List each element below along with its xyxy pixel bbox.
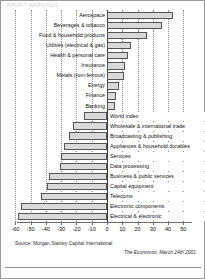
x-axis: -60-50-40-30-20-1001020304050 — [1, 222, 205, 234]
bar — [107, 22, 162, 29]
bar-row: Wholesale & international trade — [1, 121, 205, 131]
source-note: Source: Morgan Stanley Capital Internati… — [15, 241, 112, 246]
bar-label: Finance — [3, 91, 105, 100]
bar-row: Utilities (electrical & gas) — [1, 41, 205, 51]
bar-row: Appliances & household durables — [1, 141, 205, 151]
bar-row: Telecoms — [1, 191, 205, 201]
bar-row: Insurance — [1, 61, 205, 71]
bar — [107, 42, 131, 49]
bar-row: Services — [1, 151, 205, 161]
bar — [47, 183, 107, 190]
bar-row: Food & household products — [1, 31, 205, 41]
bar-label: Banking — [3, 102, 105, 111]
chart-title: PROFIT WARNINGS — [7, 2, 197, 9]
bar — [107, 32, 147, 39]
bar-label: Health & personal care — [3, 51, 105, 60]
bar-label: Electronic components — [109, 202, 205, 211]
bar-label: Food & household products — [3, 31, 105, 40]
bar — [107, 92, 116, 99]
axis-tick-label: 50 — [173, 225, 193, 233]
bar-row: Energy — [1, 81, 205, 91]
chart-figure: PROFIT WARNINGS AerospaceBeverages & tob… — [0, 0, 205, 279]
bar — [49, 173, 107, 180]
bar-row: Capital equipment — [1, 181, 205, 191]
bar — [18, 213, 107, 220]
bar-label: Aerospace — [3, 11, 105, 20]
bar — [60, 163, 107, 170]
bar — [107, 72, 124, 79]
bar-label: Energy — [3, 81, 105, 90]
bar-label: Broadcasting & publishing — [109, 132, 205, 141]
bar-label: Data processing — [109, 162, 205, 171]
bar-row: Electronic components — [1, 201, 205, 211]
bar-label: Capital equipment — [109, 182, 205, 191]
bar-row: Business & public services — [1, 171, 205, 181]
bar — [107, 82, 119, 89]
economist-credit: The Economist, March 24th 2001 — [124, 250, 196, 255]
bar-row: Banking — [1, 101, 205, 111]
bar-label: Insurance — [3, 61, 105, 70]
bar-label: Business & public services — [109, 172, 205, 181]
bar-label: Beverages & tobacco — [3, 21, 105, 30]
bar-label: Appliances & household durables — [109, 142, 205, 151]
bar-row: Health & personal care — [1, 51, 205, 61]
bar-row: Data processing — [1, 161, 205, 171]
bar — [107, 102, 115, 109]
bar — [21, 203, 107, 210]
plot-area: AerospaceBeverages & tobaccoFood & house… — [1, 10, 205, 222]
bar-label: Services — [109, 152, 205, 161]
x-axis-line — [17, 222, 192, 223]
bar-label: Utilities (electrical & gas) — [3, 41, 105, 50]
bar — [61, 153, 107, 160]
bar-row: Metals (non-ferrous) — [1, 71, 205, 81]
bar — [107, 62, 125, 69]
bar-label: Metals (non-ferrous) — [3, 71, 105, 80]
bar-row: Beverages & tobacco — [1, 21, 205, 31]
bar-row: Electrical & electronic — [1, 212, 205, 222]
bar — [84, 112, 107, 119]
bar-label: Electrical & electronic — [109, 212, 205, 221]
bar-row: World index — [1, 111, 205, 121]
bar — [107, 12, 173, 19]
bar-row: Finance — [1, 91, 205, 101]
bar — [64, 143, 107, 150]
bar — [73, 122, 107, 129]
bar-label: World index — [109, 112, 205, 121]
bar-label: Wholesale & international trade — [109, 122, 205, 131]
bar-label: Telecoms — [109, 192, 205, 201]
footer-divider — [5, 267, 201, 268]
bar — [69, 132, 107, 139]
bar-row: Broadcasting & publishing — [1, 131, 205, 141]
bar — [41, 193, 107, 200]
bar-row: Aerospace — [1, 11, 205, 21]
bar — [107, 52, 128, 59]
chart-footer: Source: Morgan Stanley Capital Internati… — [1, 241, 205, 279]
